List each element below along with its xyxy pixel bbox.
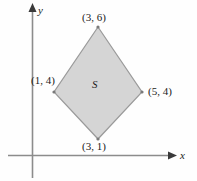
y-axis-label: y [38,5,43,16]
vertex-label-right: (5, 4) [148,86,172,97]
vertex-label-left: (1, 4) [31,75,55,86]
x-axis-arrow-icon [168,152,177,160]
region-label-s: S [92,79,98,90]
coordinate-plane-figure: y x (3, 6) (1, 4) (5, 4) (3, 1) S [0,0,197,181]
vertex-marker-left [52,90,55,93]
region-polygon-s [54,27,142,139]
vertex-label-top: (3, 6) [82,12,106,23]
vertex-marker-right [140,90,143,93]
x-axis-label: x [180,150,185,161]
vertex-marker-top [96,25,99,28]
y-axis-arrow-icon [29,3,37,12]
vertex-label-bottom: (3, 1) [82,141,106,152]
